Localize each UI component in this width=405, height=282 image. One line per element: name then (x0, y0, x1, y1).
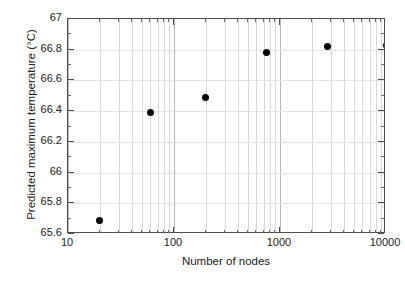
x-axis-tick-top (343, 19, 344, 22)
x-axis-tick-top (274, 19, 275, 22)
y-axis-minor-tick-right (381, 126, 384, 127)
x-axis-tick-top (269, 19, 270, 22)
x-axis-tick-top (99, 19, 100, 22)
x-axis-tick (141, 230, 142, 233)
x-axis-tick-top (67, 19, 68, 25)
y-axis-tick-right (378, 202, 384, 203)
x-axis-tick-top (141, 19, 142, 22)
y-axis-tick-right (378, 79, 384, 80)
x-axis-tick (330, 230, 331, 233)
x-gridline (132, 19, 133, 232)
plot-area (67, 18, 385, 233)
x-axis-tick (173, 227, 174, 233)
y-axis-tick-right (378, 49, 384, 50)
x-axis-tick (369, 230, 370, 233)
x-gridline (119, 19, 120, 232)
x-axis-tick (361, 230, 362, 233)
x-gridline (370, 19, 371, 232)
x-gridline (312, 19, 313, 232)
x-gridline (225, 19, 226, 232)
x-gridline (280, 19, 281, 232)
data-point (147, 109, 154, 116)
x-axis-tick (168, 230, 169, 233)
x-axis-tick-top (279, 19, 280, 25)
y-gridline (68, 111, 384, 112)
y-gridline (68, 173, 384, 174)
x-axis-tick-top (173, 19, 174, 25)
x-axis-tick (247, 230, 248, 233)
y-axis-tick (68, 233, 74, 234)
x-axis-tick-label: 1000 (249, 236, 309, 248)
y-axis-tick (68, 79, 74, 80)
x-axis-tick (118, 230, 119, 233)
x-gridline (174, 19, 175, 232)
y-gridline (68, 203, 384, 204)
x-axis-tick-top (263, 19, 264, 22)
x-axis-tick-top (380, 19, 381, 22)
x-axis-tick-label: 10000 (355, 236, 405, 248)
y-axis-tick (68, 110, 74, 111)
x-axis-tick-top (375, 19, 376, 22)
x-gridline (164, 19, 165, 232)
y-axis-minor-tick-right (381, 218, 384, 219)
x-gridline (362, 19, 363, 232)
y-axis-tick (68, 49, 74, 50)
x-gridline (100, 19, 101, 232)
x-axis-tick-top (330, 19, 331, 22)
x-axis-tick (224, 230, 225, 233)
y-axis-minor-tick (68, 126, 71, 127)
x-axis-title: Number of nodes (67, 255, 385, 267)
y-gridline (68, 80, 384, 81)
x-axis-tick (99, 230, 100, 233)
y-axis-tick-right (378, 233, 384, 234)
x-axis-tick-top (255, 19, 256, 22)
y-axis-minor-tick (68, 95, 71, 96)
y-axis-tick-label: 65.8 (2, 196, 62, 207)
x-gridline (354, 19, 355, 232)
y-axis-tick (68, 18, 74, 19)
y-gridline (68, 50, 384, 51)
x-axis-tick-top (163, 19, 164, 22)
x-axis-tick-top (353, 19, 354, 22)
x-gridline (150, 19, 151, 232)
x-gridline (376, 19, 377, 232)
x-gridline (275, 19, 276, 232)
x-axis-tick (237, 230, 238, 233)
x-axis-tick (163, 230, 164, 233)
x-axis-tick (311, 230, 312, 233)
x-axis-tick (263, 230, 264, 233)
x-axis-tick-top (131, 19, 132, 22)
x-axis-tick (279, 227, 280, 233)
x-gridline (206, 19, 207, 232)
x-axis-tick (149, 230, 150, 233)
y-axis-minor-tick-right (381, 187, 384, 188)
x-axis-tick-top (237, 19, 238, 22)
y-axis-tick (68, 141, 74, 142)
x-axis-tick (274, 230, 275, 233)
x-axis-tick (343, 230, 344, 233)
x-axis-tick-top (369, 19, 370, 22)
y-axis-tick-right (378, 172, 384, 173)
y-axis-tick-right (378, 141, 384, 142)
x-axis-tick (255, 230, 256, 233)
x-axis-tick-top (168, 19, 169, 22)
x-gridline (158, 19, 159, 232)
x-axis-tick-top (224, 19, 225, 22)
x-axis-tick-top (311, 19, 312, 22)
x-axis-tick-top (247, 19, 248, 22)
y-axis-tick-right (378, 110, 384, 111)
x-axis-tick (131, 230, 132, 233)
y-axis-minor-tick (68, 156, 71, 157)
x-axis-tick-top (118, 19, 119, 22)
y-axis-minor-tick-right (381, 156, 384, 157)
y-axis-tick (68, 172, 74, 173)
x-axis-tick (375, 230, 376, 233)
x-axis-tick (157, 230, 158, 233)
x-axis-tick-label: 10 (37, 236, 97, 248)
x-axis-tick-top (205, 19, 206, 22)
data-point (202, 94, 209, 101)
y-axis-tick-label: 66.2 (2, 135, 62, 146)
x-axis-tick (269, 230, 270, 233)
x-axis-tick (205, 230, 206, 233)
x-axis-tick-top (157, 19, 158, 22)
